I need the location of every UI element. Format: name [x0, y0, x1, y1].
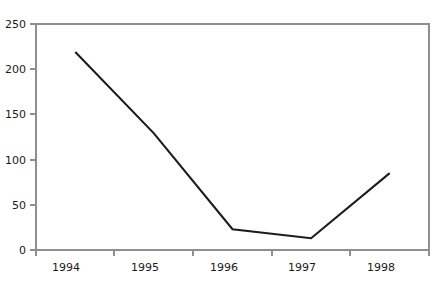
y-tick-label-50: 50: [12, 199, 26, 212]
x-axis-ticks: [36, 250, 429, 256]
x-tick-label-1998: 1998: [367, 261, 395, 274]
y-tick-label-200: 200: [5, 63, 26, 76]
y-tick-label-0: 0: [19, 244, 26, 257]
x-tick-label-1994: 1994: [52, 261, 80, 274]
plot-background: [36, 24, 429, 250]
line-chart-figure: 250 200 150 100 50 0 1994 1995 1996 1997…: [0, 0, 440, 285]
x-tick-label-1997: 1997: [288, 261, 316, 274]
x-tick-label-1996: 1996: [210, 261, 238, 274]
y-tick-label-250: 250: [5, 18, 26, 31]
x-axis-tick-labels: 1994 1995 1996 1997 1998: [52, 261, 395, 274]
y-axis-ticks: [30, 24, 36, 250]
y-tick-label-150: 150: [5, 108, 26, 121]
y-tick-label-100: 100: [5, 154, 26, 167]
x-tick-label-1995: 1995: [131, 261, 159, 274]
y-axis-tick-labels: 250 200 150 100 50 0: [5, 18, 26, 257]
chart-canvas: 250 200 150 100 50 0 1994 1995 1996 1997…: [0, 0, 440, 285]
